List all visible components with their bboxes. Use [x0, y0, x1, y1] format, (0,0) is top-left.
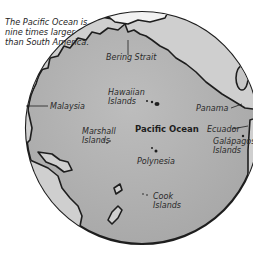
label-cook-line2: Islands	[153, 201, 181, 210]
label-malaysia: Malaysia	[50, 102, 85, 111]
label-hawaiian-line1: Hawaiian	[108, 88, 145, 97]
label-marshall-line2: Islands	[82, 136, 116, 145]
label-panama: Panama	[196, 104, 228, 113]
label-galapagos-line1: Galápagos	[213, 137, 253, 146]
label-cook-line1: Cook	[153, 192, 181, 201]
label-pacific-ocean: Pacific Ocean	[135, 124, 199, 134]
label-cook-islands: Cook Islands	[153, 192, 181, 210]
label-galapagos-islands: Galápagos Islands	[213, 137, 253, 155]
label-marshall-islands: Marshall Islands	[82, 127, 116, 145]
lake-shape	[236, 66, 248, 90]
label-galapagos-line2: Islands	[213, 146, 253, 155]
pacific-caption: The Pacific Ocean is nine times larger t…	[5, 17, 95, 47]
label-polynesia: Polynesia	[137, 157, 175, 166]
label-hawaiian-line2: Islands	[108, 97, 145, 106]
label-hawaiian-islands: Hawaiian Islands	[108, 88, 145, 106]
label-bering-strait: Bering Strait	[106, 53, 156, 62]
label-ecuador: Ecuador	[207, 125, 240, 134]
label-marshall-line1: Marshall	[82, 127, 116, 136]
